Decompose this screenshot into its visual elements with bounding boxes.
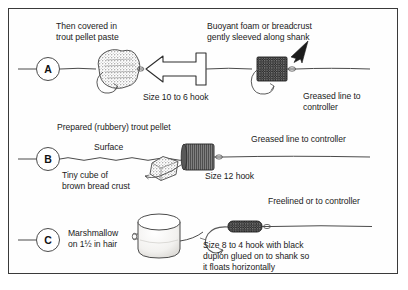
label-b-pellet: Prepared (rubbery) trout pellet — [57, 122, 171, 133]
label-a-bait-line2: trout pellet paste — [56, 32, 119, 43]
label-a-hook-size: Size 10 to 6 hook — [143, 92, 209, 103]
figure-canvas: A B C Then covered in trout pellet paste… — [0, 0, 408, 290]
label-a-foam-line1: Buoyant foam or breadcrust — [207, 21, 312, 32]
panel-a-group — [18, 41, 370, 94]
label-a-line-line1: Greased line to — [303, 91, 361, 102]
panel-letter-c: C — [37, 229, 59, 251]
label-a-bait-line1: Then covered in — [56, 21, 117, 32]
label-c-line: Freelined or to controller — [268, 196, 360, 207]
label-c-hook-line2: duplon glued on to shank so — [203, 251, 309, 262]
panel-letter-b: B — [37, 148, 59, 170]
label-a-line-line2: controller — [303, 102, 338, 113]
label-b-line: Greased line to controller — [251, 134, 346, 145]
label-b-surface: Surface — [94, 142, 123, 153]
label-b-crust-line2: brown bread crust — [62, 181, 130, 192]
label-c-bait-line1: Marshmallow — [68, 228, 118, 239]
panel-letter-a: A — [37, 58, 59, 80]
label-c-hook-line1: Size 8 to 4 hook with black — [203, 240, 303, 251]
label-b-hook-size: Size 12 hook — [205, 171, 254, 182]
label-c-hook-line3: it floats horizontally — [203, 262, 275, 273]
label-c-bait-line2: on 1½ in hair — [68, 239, 117, 250]
label-a-foam-line2: gently sleeved along shank — [207, 32, 309, 43]
label-b-crust-line1: Tiny cube of — [62, 170, 108, 181]
